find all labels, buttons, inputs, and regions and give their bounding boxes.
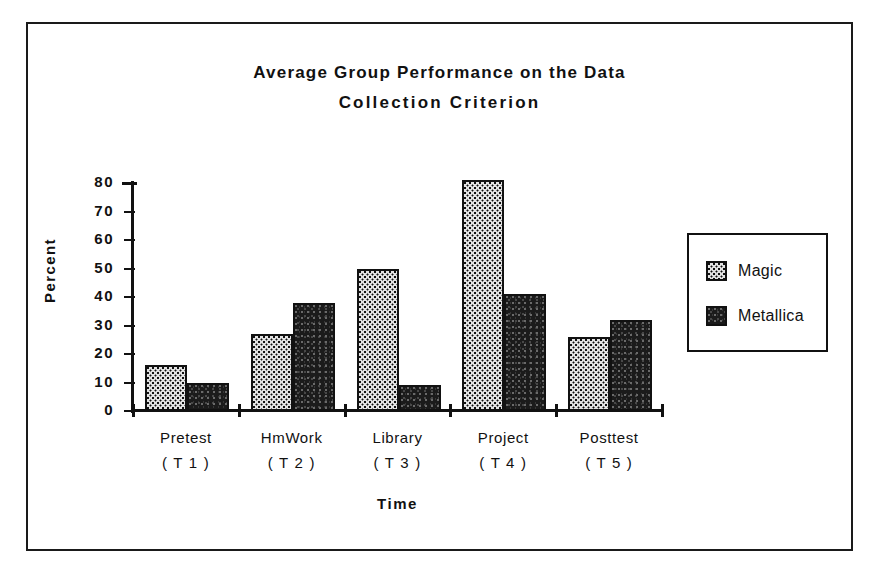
magic-pattern-swatch — [706, 261, 727, 281]
y-axis-title: Percent — [41, 216, 58, 326]
x-category-code-4: ( T 5 ) — [546, 450, 672, 475]
y-tick-label-50: 50 — [68, 259, 114, 276]
y-tick-label-30: 30 — [68, 316, 114, 333]
chart-figure: Average Group Performance on the Data Co… — [0, 0, 877, 581]
y-tick-label-0: 0 — [68, 401, 114, 418]
bar-metallica-1 — [293, 303, 335, 411]
y-tick-label-10: 10 — [68, 373, 114, 390]
bar-metallica-0 — [187, 383, 229, 412]
chart-title-line-1: Average Group Performance on the Data — [253, 63, 626, 82]
bar-magic-1 — [251, 334, 293, 411]
chart-legend: MagicMetallica — [687, 233, 828, 352]
x-category-name-2: Library — [372, 429, 422, 446]
bar-metallica-2 — [399, 385, 441, 411]
x-category-name-3: Project — [478, 429, 529, 446]
chart-title-line-2: Collection Criterion — [26, 88, 853, 118]
x-category-name-0: Pretest — [160, 429, 212, 446]
x-axis-title: Time — [133, 495, 662, 512]
y-tick-label-70: 70 — [68, 202, 114, 219]
bar-magic-0 — [145, 365, 187, 411]
y-tick-label-80: 80 — [68, 173, 114, 190]
bar-magic-2 — [357, 269, 399, 412]
bar-metallica-4 — [610, 320, 652, 411]
bar-metallica-3 — [504, 294, 546, 411]
x-category-label-4: Posttest( T 5 ) — [546, 425, 672, 475]
x-category-name-4: Posttest — [580, 429, 639, 446]
y-tick-label-40: 40 — [68, 287, 114, 304]
bar-magic-4 — [568, 337, 610, 411]
legend-label-magic: Magic — [738, 259, 782, 283]
y-tick-label-20: 20 — [68, 344, 114, 361]
metallica-pattern-swatch — [706, 306, 727, 326]
x-category-name-1: HmWork — [261, 429, 323, 446]
plot-area — [133, 183, 662, 411]
legend-label-metallica: Metallica — [738, 304, 804, 328]
chart-title: Average Group Performance on the Data Co… — [26, 58, 853, 118]
bar-magic-3 — [462, 180, 504, 411]
y-tick-label-60: 60 — [68, 230, 114, 247]
